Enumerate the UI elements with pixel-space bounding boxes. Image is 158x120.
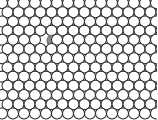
lattice-circle <box>52 108 63 119</box>
lattice-circle <box>85 108 96 119</box>
lattice-circle <box>8 108 19 119</box>
lattice-circle <box>107 108 118 119</box>
lattice-circle <box>41 108 52 119</box>
lattice-circle <box>30 108 41 119</box>
lattice-circle <box>63 108 74 119</box>
lattice-circle <box>140 108 151 119</box>
lattice-circle <box>96 108 107 119</box>
lattice-diagram <box>0 0 157 120</box>
lattice-circle <box>151 108 158 119</box>
lattice-circle <box>129 108 140 119</box>
lattice-circle <box>74 108 85 119</box>
lattice-circle-layer <box>0 0 157 119</box>
lattice-circle <box>0 108 8 119</box>
lattice-circle <box>118 108 129 119</box>
lattice-circle <box>19 108 30 119</box>
lattice-figure <box>0 0 157 120</box>
